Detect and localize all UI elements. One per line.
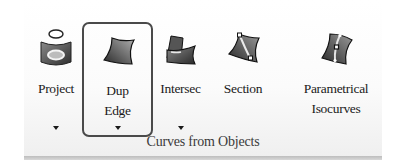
project-label-line1: Project	[30, 79, 82, 99]
project-label: Project	[30, 79, 82, 99]
dup-edge-dropdown-arrow[interactable]	[115, 126, 121, 130]
intersect-icon	[161, 28, 201, 68]
intersect-dropdown-arrow[interactable]	[178, 126, 184, 130]
dup-edge-label-line2: Edge	[84, 101, 151, 121]
isocurves-icon	[316, 28, 356, 68]
dup-edge-button[interactable]: Dup Edge	[82, 22, 153, 137]
panel-bottom-bar	[24, 156, 382, 160]
isocurves-label-line1: Parametrical	[290, 79, 382, 99]
dup-edge-label: Dup Edge	[84, 81, 151, 121]
isocurves-label-line2: Isocurves	[290, 99, 382, 119]
section-button[interactable]: Section	[214, 22, 272, 137]
intersect-label: Intersec	[153, 79, 208, 99]
project-curve-icon	[36, 28, 76, 68]
project-button[interactable]: Project	[30, 22, 82, 137]
panel-title: Curves from Objects	[24, 134, 382, 150]
intersect-label-line1: Intersec	[153, 79, 208, 99]
project-dropdown-arrow[interactable]	[53, 126, 59, 130]
dup-edge-label-line1: Dup	[84, 81, 151, 101]
section-label: Section	[214, 79, 272, 99]
section-label-line1: Section	[214, 79, 272, 99]
section-icon	[223, 28, 263, 68]
parametrical-isocurves-label: Parametrical Isocurves	[290, 79, 382, 119]
intersect-button[interactable]: Intersec	[153, 22, 208, 137]
duplicate-edge-icon	[98, 30, 138, 70]
parametrical-isocurves-button[interactable]: Parametrical Isocurves	[290, 22, 382, 137]
